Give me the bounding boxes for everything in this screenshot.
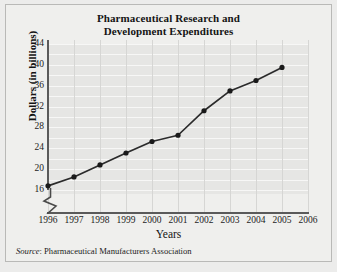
data-point-marker — [279, 65, 284, 70]
gridline-vertical — [308, 40, 309, 212]
chart-title: Pharmaceutical Research and Development … — [0, 12, 337, 37]
y-tick-label: 36 — [18, 81, 44, 91]
y-tick-label: 44 — [18, 39, 44, 49]
data-point-marker — [253, 78, 258, 83]
x-axis-tick-labels: 1996199719981999200020012002200320042005… — [48, 215, 328, 229]
y-tick-label: 40 — [18, 60, 44, 70]
y-tick-label: 24 — [18, 143, 44, 153]
y-axis-tick-labels: 1620242832364044 — [14, 40, 44, 200]
source-label: Source — [16, 246, 40, 256]
x-axis-line — [47, 212, 309, 214]
y-tick-label: 20 — [18, 164, 44, 174]
data-point-marker — [201, 108, 206, 113]
series-polyline — [48, 67, 282, 185]
data-point-marker — [123, 150, 128, 155]
data-point-marker — [45, 183, 50, 188]
figure-container: Pharmaceutical Research and Development … — [0, 0, 337, 272]
chart-title-line-2: Development Expenditures — [0, 25, 337, 38]
data-point-marker — [97, 162, 102, 167]
data-point-marker — [71, 174, 76, 179]
chart-title-line-1: Pharmaceutical Research and — [97, 12, 240, 24]
plot-area — [48, 40, 308, 212]
x-axis-label: Years — [0, 228, 337, 240]
x-tick-label: 2006 — [288, 215, 328, 225]
data-point-marker — [175, 133, 180, 138]
y-tick-label: 32 — [18, 102, 44, 112]
data-point-marker — [227, 88, 232, 93]
source-note: Source: Pharmaceutical Manufacturers Ass… — [16, 246, 192, 256]
source-text: Pharmaceutical Manufacturers Association — [44, 246, 191, 256]
y-tick-label: 28 — [18, 122, 44, 132]
data-point-marker — [149, 139, 154, 144]
data-series-line — [48, 40, 308, 212]
